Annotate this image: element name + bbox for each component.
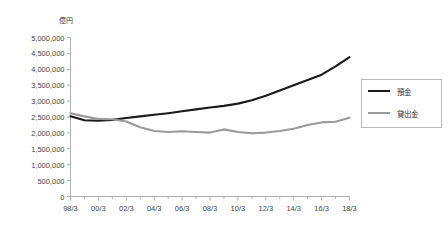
x-axis-tick-label: 18/3 (342, 204, 357, 213)
x-axis-tick-label: 06/3 (175, 204, 190, 213)
x-axis-tick-label: 10/3 (231, 204, 246, 213)
x-axis-tick-label: 04/3 (147, 204, 162, 213)
legend-item-deposits: 預金 (362, 80, 441, 102)
x-axis-tick-label: 12/3 (258, 204, 273, 213)
x-axis-tick-label: 08/3 (203, 204, 218, 213)
series-line-deposits (71, 57, 350, 121)
x-axis-tick-label: 98/3 (63, 204, 78, 213)
y-axis-tick-label: 2,500,000 (0, 113, 65, 122)
legend-swatch-loans (368, 112, 390, 114)
legend-swatch-deposits (368, 90, 390, 92)
chart-legend: 預金 貸出金 (361, 79, 442, 128)
x-axis-tick-label: 02/3 (119, 204, 134, 213)
y-axis-tick-label: 5,000,000 (0, 33, 65, 42)
series-line-loans (71, 113, 350, 133)
legend-label-deposits: 預金 (397, 86, 411, 97)
y-axis-tick-label: 1,500,000 (0, 144, 65, 153)
legend-item-loans: 貸出金 (362, 102, 441, 124)
x-axis-tick-label: 00/3 (91, 204, 106, 213)
legend-label-loans: 貸出金 (397, 108, 418, 119)
y-axis-tick-label: 3,000,000 (0, 97, 65, 106)
y-axis-tick-label: 1,000,000 (0, 160, 65, 169)
y-axis-tick-label: 0 (0, 192, 65, 201)
x-axis-tick-label: 16/3 (314, 204, 329, 213)
line-chart: 億円 5,000,0004,500,0004,000,0003,500,0003… (0, 0, 448, 234)
y-axis-tick-label: 4,500,000 (0, 49, 65, 58)
y-axis-tick-label: 4,000,000 (0, 65, 65, 74)
y-axis-tick-label: 2,000,000 (0, 128, 65, 137)
x-axis-tick-label: 14/3 (286, 204, 301, 213)
y-axis-tick-label: 3,500,000 (0, 81, 65, 90)
y-axis-tick-label: 500,000 (0, 176, 65, 185)
